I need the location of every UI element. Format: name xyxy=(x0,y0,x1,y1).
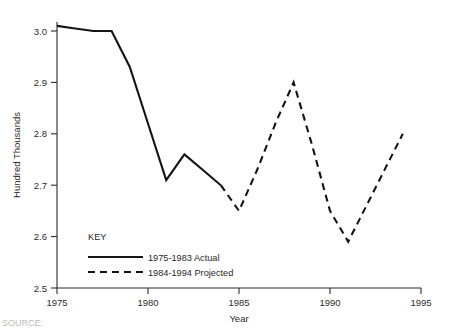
x-tick-label-1980: 1980 xyxy=(137,297,158,308)
y-tick-label-2-6: 2.6 xyxy=(34,231,47,242)
series-line-projected xyxy=(221,82,403,241)
legend-label-projected: 1984-1994 Projected xyxy=(148,268,233,278)
y-tick-label-2-9: 2.9 xyxy=(34,77,47,88)
y-tick-label-2-8: 2.8 xyxy=(34,128,47,139)
chart-figure: 2.5 2.6 2.7 2.8 2.9 3.0 1975 1980 1985 1… xyxy=(0,0,460,328)
y-tick-label-3-0: 3.0 xyxy=(34,26,47,37)
y-tick-label-2-5: 2.5 xyxy=(34,283,47,294)
x-axis-title: Year xyxy=(229,313,248,324)
y-axis-title: Hundred Thousands xyxy=(11,112,22,198)
series-line-actual xyxy=(57,26,221,185)
line-chart-canvas: 2.5 2.6 2.7 2.8 2.9 3.0 1975 1980 1985 1… xyxy=(0,0,460,328)
y-tick-label-2-7: 2.7 xyxy=(34,180,47,191)
x-tick-label-1985: 1985 xyxy=(228,297,249,308)
x-tick-label-1990: 1990 xyxy=(319,297,340,308)
x-tick-label-1995: 1995 xyxy=(410,297,431,308)
source-note: SOURCE: xyxy=(2,318,43,328)
legend-label-actual: 1975-1983 Actual xyxy=(148,253,220,263)
legend-title: KEY xyxy=(88,232,106,242)
x-tick-label-1975: 1975 xyxy=(46,297,67,308)
